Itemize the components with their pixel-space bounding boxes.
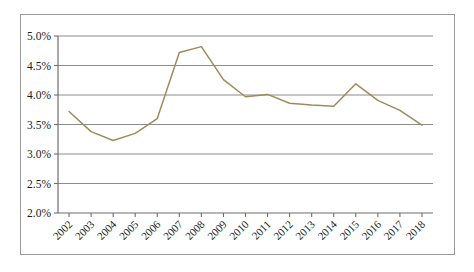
x-tick-label: 2008: [183, 218, 207, 242]
x-tick-label: 2017: [381, 218, 405, 242]
data-series-line: [69, 47, 422, 141]
chart-figure: 2.0%2.5%3.0%3.5%4.0%4.5%5.0% 20022003200…: [20, 14, 455, 255]
x-tick-label: 2004: [95, 218, 119, 242]
x-tick-label: 2010: [227, 218, 251, 242]
x-tick-label: 2016: [359, 218, 383, 242]
y-tick-label: 4.5%: [27, 60, 51, 72]
y-tick-label: 2.5%: [27, 178, 51, 190]
x-tick-label: 2009: [205, 218, 229, 242]
x-tick-label: 2012: [271, 218, 295, 242]
x-axis-ticks: 2002200320042005200620072008200920102011…: [50, 213, 427, 242]
x-tick-label: 2013: [293, 218, 317, 242]
x-tick-label: 2003: [72, 218, 96, 242]
y-axis-ticks: 2.0%2.5%3.0%3.5%4.0%4.5%5.0%: [27, 30, 58, 219]
y-tick-label: 4.0%: [27, 89, 51, 101]
y-tick-label: 5.0%: [27, 30, 51, 42]
x-tick-label: 2002: [50, 218, 74, 242]
x-tick-label: 2007: [161, 218, 185, 242]
y-tick-label: 3.5%: [27, 119, 51, 131]
chart-plot-area: 2.0%2.5%3.0%3.5%4.0%4.5%5.0% 20022003200…: [21, 15, 454, 254]
line-chart-svg: 2.0%2.5%3.0%3.5%4.0%4.5%5.0% 20022003200…: [21, 15, 454, 254]
x-tick-label: 2018: [403, 218, 427, 242]
y-tick-label: 3.0%: [27, 148, 51, 160]
y-gridlines: [58, 36, 433, 184]
x-tick-label: 2005: [117, 218, 141, 242]
x-tick-label: 2006: [139, 218, 163, 242]
y-tick-label: 2.0%: [27, 207, 51, 219]
x-tick-label: 2014: [315, 218, 339, 242]
x-tick-label: 2015: [337, 218, 361, 242]
x-tick-label: 2011: [249, 218, 273, 242]
